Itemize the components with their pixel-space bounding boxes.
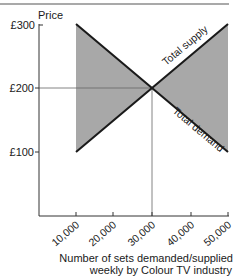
y-tick-300: £300	[11, 19, 35, 31]
x-tick-20000: 20,000	[86, 218, 118, 248]
x-axis-label-line2: weekly by Colour TV industry	[89, 264, 233, 276]
x-axis-label-line1: Number of sets demanded/supplied	[59, 252, 233, 264]
y-tick-100: £100	[10, 146, 34, 158]
x-tick-10000: 10,000	[49, 218, 81, 248]
supply-demand-chart: Price £300 £200 £100 10,000 20,000 30,00…	[0, 0, 235, 276]
x-tick-50000: 50,000	[201, 218, 233, 248]
x-tick-40000: 40,000	[164, 218, 196, 248]
x-tick-30000: 30,000	[125, 218, 157, 248]
y-axis-label: Price	[38, 9, 63, 21]
y-tick-200: £200	[10, 82, 34, 94]
